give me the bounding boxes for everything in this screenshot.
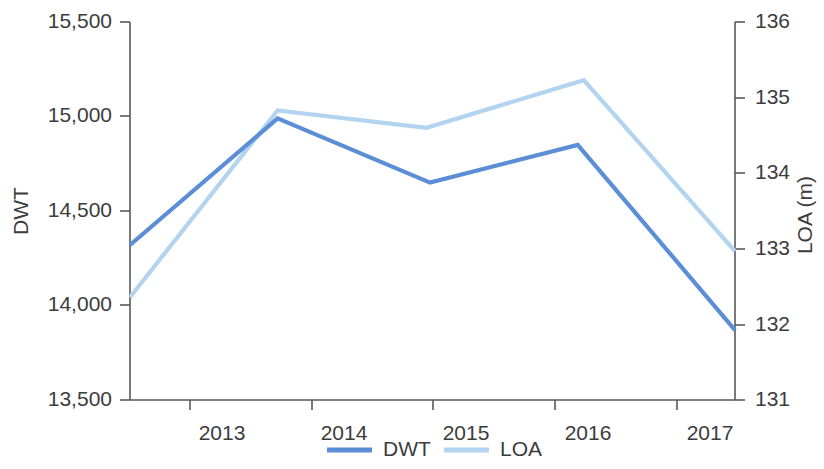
bottom-tick-label-2013: 2013 [199,421,246,444]
plot-area [130,80,735,330]
right-tick-label-134: 134 [755,160,790,183]
right-tick-label-135: 135 [755,85,790,108]
bottom-tick-label-2014: 2014 [321,421,368,444]
left-axis-group: 15,500 15,000 14,500 14,000 13,500 DWT [9,9,130,410]
series-line-loa [130,80,735,297]
legend-label-loa: LOA [500,437,542,460]
right-tick-label-133: 133 [755,236,790,259]
left-tick-label-14500: 14,500 [48,198,112,221]
left-axis-title: DWT [9,187,32,235]
left-tick-label-13500: 13,500 [48,387,112,410]
right-tick-label-131: 131 [755,387,790,410]
left-tick-label-15000: 15,000 [48,103,112,126]
bottom-tick-label-2016: 2016 [565,421,612,444]
bottom-tick-label-2015: 2015 [443,421,490,444]
left-tick-label-15500: 15,500 [48,9,112,32]
right-axis-title: LOA (m) [793,176,816,254]
bottom-axis-group: 2013 2014 2015 2016 2017 [130,400,735,444]
right-tick-label-132: 132 [755,312,790,335]
right-tick-label-136: 136 [755,9,790,32]
bottom-tick-label-2017: 2017 [687,421,734,444]
left-tick-label-14000: 14,000 [48,292,112,315]
right-axis-group: 136 135 134 133 132 131 LOA (m) [735,9,816,410]
chart-canvas: 15,500 15,000 14,500 14,000 13,500 DWT 1… [0,0,824,469]
legend-label-dwt: DWT [383,437,431,460]
dual-axis-line-chart: 15,500 15,000 14,500 14,000 13,500 DWT 1… [0,0,824,469]
